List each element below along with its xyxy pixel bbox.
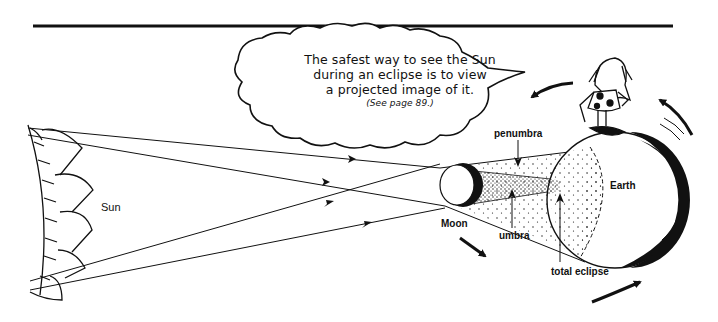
diagram-artwork	[0, 0, 718, 322]
label-umbra: umbra	[499, 230, 530, 241]
bubble-line-1: The safest way to see the Sun	[300, 52, 500, 67]
label-earth: Earth	[610, 180, 636, 191]
bubble-note: (See page 89.)	[300, 97, 500, 109]
cave-person-figure	[580, 58, 632, 135]
label-sun: Sun	[101, 201, 121, 213]
bubble-line-3: a projected image of it.	[300, 82, 500, 97]
sun-limb	[28, 125, 93, 300]
moon	[440, 163, 483, 207]
label-total-eclipse: total eclipse	[551, 266, 609, 277]
label-penumbra: penumbra	[494, 128, 542, 139]
speech-bubble-text: The safest way to see the Sun during an …	[300, 52, 500, 109]
eclipse-diagram: The safest way to see the Sun during an …	[0, 0, 718, 322]
label-moon: Moon	[441, 218, 468, 229]
ray-arrowheads	[322, 155, 372, 228]
earth	[547, 132, 690, 268]
bubble-line-2: during an eclipse is to view	[300, 67, 500, 82]
